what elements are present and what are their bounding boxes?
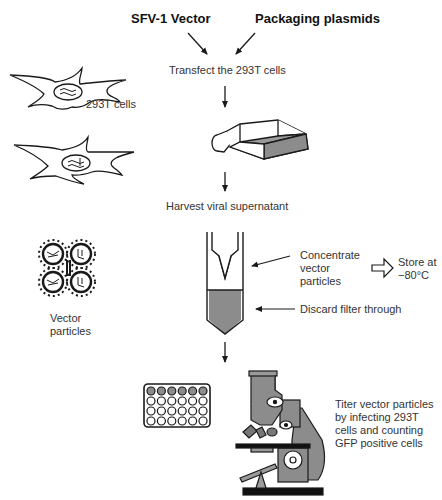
- concentrate-line-1: Concentrate: [300, 249, 360, 262]
- plate-well: [157, 387, 165, 395]
- titer-line-1: Titer vector particles: [335, 398, 434, 411]
- well-plate-icon: [144, 384, 210, 427]
- plate-well: [168, 397, 176, 405]
- plate-well: [157, 397, 165, 405]
- plate-well: [178, 417, 186, 425]
- arrow-concentrate: [252, 256, 290, 266]
- input-arrows: [188, 33, 255, 54]
- plate-well: [189, 407, 197, 415]
- concentrate-line-3: particles: [300, 275, 360, 288]
- plate-well: [147, 407, 155, 415]
- plate-well: [199, 387, 207, 395]
- input-sfv-vector: SFV-1 Vector: [131, 12, 210, 25]
- plate-well: [147, 417, 155, 425]
- vector-particles-icon: [39, 240, 95, 296]
- plate-well: [189, 417, 197, 425]
- plate-well: [168, 387, 176, 395]
- titer-line-3: cells and counting: [335, 424, 434, 437]
- plate-well: [178, 397, 186, 405]
- plate-well: [199, 407, 207, 415]
- culture-flask-icon: [212, 120, 308, 159]
- plate-well: [199, 397, 207, 405]
- step-discard: Discard filter through: [300, 303, 402, 316]
- plate-well: [199, 417, 207, 425]
- plate-well: [157, 407, 165, 415]
- step-transfect: Transfect the 293T cells: [169, 64, 286, 77]
- plate-well: [178, 407, 186, 415]
- input-packaging-plasmids: Packaging plasmids: [255, 12, 380, 25]
- store-arrow-icon: [372, 259, 393, 277]
- label-vector-particles: Vector particles: [50, 312, 91, 338]
- step-concentrate: Concentrate vector particles: [300, 249, 360, 288]
- store-line-1: Store at: [398, 256, 437, 269]
- label-293t-cells: 293T cells: [86, 98, 136, 111]
- concentrate-line-2: vector: [300, 262, 360, 275]
- plate-well: [178, 387, 186, 395]
- store-line-2: −80°C: [398, 269, 437, 282]
- particles-line-2: particles: [50, 325, 91, 338]
- plate-well: [189, 387, 197, 395]
- step-harvest: Harvest viral supernatant: [166, 200, 288, 213]
- step-titer: Titer vector particles by infecting 293T…: [335, 398, 434, 450]
- concentrator-tube-icon: [207, 232, 243, 334]
- plate-well: [157, 417, 165, 425]
- plate-well: [147, 387, 155, 395]
- microscope-icon: [236, 371, 324, 495]
- titer-line-4: GFP positive cells: [335, 437, 434, 450]
- titer-line-2: by infecting 293T: [335, 411, 434, 424]
- plate-well: [189, 397, 197, 405]
- particles-line-1: Vector: [50, 312, 91, 325]
- step-store: Store at −80°C: [398, 256, 437, 282]
- plate-well: [168, 407, 176, 415]
- plate-well: [147, 397, 155, 405]
- plate-well: [168, 417, 176, 425]
- cell-icon-bottom: [14, 137, 134, 184]
